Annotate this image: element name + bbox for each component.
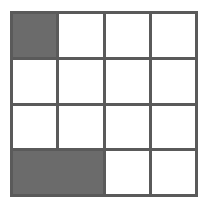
grid-cell-r1c3[interactable] <box>104 13 150 59</box>
table-row <box>12 58 197 104</box>
grid-cell-r4c1[interactable] <box>12 150 58 196</box>
grid-cell-r4c2[interactable] <box>58 150 104 196</box>
grid-cell-r3c2[interactable] <box>58 104 104 150</box>
grid-body <box>12 13 197 196</box>
table-row <box>12 150 197 196</box>
grid-cell-r4c3[interactable] <box>104 150 150 196</box>
grid-cell-r1c4[interactable] <box>150 13 196 59</box>
grid-cell-r4c4[interactable] <box>150 150 196 196</box>
shaded-grid-diagram <box>10 11 198 197</box>
grid-cell-r3c3[interactable] <box>104 104 150 150</box>
table-row <box>12 104 197 150</box>
grid-cell-r1c2[interactable] <box>58 13 104 59</box>
table-row <box>12 13 197 59</box>
grid-cell-r1c1[interactable] <box>12 13 58 59</box>
grid-table <box>10 11 198 197</box>
grid-cell-r2c3[interactable] <box>104 58 150 104</box>
grid-cell-r2c2[interactable] <box>58 58 104 104</box>
grid-cell-r3c4[interactable] <box>150 104 196 150</box>
grid-cell-r2c4[interactable] <box>150 58 196 104</box>
grid-cell-r3c1[interactable] <box>12 104 58 150</box>
grid-cell-r2c1[interactable] <box>12 58 58 104</box>
